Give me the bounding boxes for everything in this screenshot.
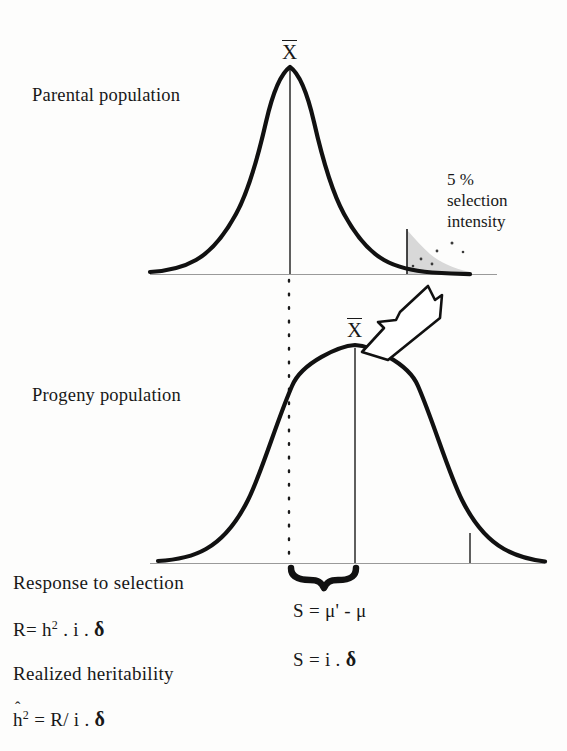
response-equation: R= h2 . i . δ	[13, 618, 105, 641]
figure-canvas: X Parental population 5 % selection inte…	[0, 0, 567, 751]
realized-heritability-equation: ˆh 2 = R/ i . δ	[13, 708, 105, 731]
parental-distribution-curve	[150, 67, 470, 274]
response-equation-prefix: R= h	[13, 619, 52, 640]
selection-differential-brace	[291, 568, 356, 588]
selection-intensity-line3: intensity	[447, 211, 567, 232]
progeny-mean-pointer-arrow	[362, 286, 442, 360]
stipple-dot	[462, 251, 465, 254]
progeny-distribution-curve	[158, 345, 545, 562]
response-equation-delta: δ	[94, 618, 105, 640]
circumflex-icon: ˆ	[15, 700, 21, 716]
selection-intensity-line2: selection	[447, 190, 567, 211]
selection-intensity-equation-delta: δ	[346, 648, 357, 670]
progeny-mean-symbol-text: X	[347, 318, 362, 341]
selection-intensity-equation-text: S = i .	[293, 649, 346, 670]
selection-intensity-note: 5 % selection intensity	[447, 169, 567, 232]
parental-population-label: Parental population	[32, 85, 180, 106]
stipple-dot	[420, 258, 423, 261]
parental-mean-symbol: X	[282, 40, 297, 65]
progeny-mean-symbol: X	[347, 318, 362, 343]
heritability-hat-group: ˆh	[13, 709, 23, 731]
selection-intensity-line1: 5 %	[447, 169, 567, 190]
parental-mean-symbol-text: X	[282, 40, 297, 63]
selection-tail-shaded-region	[407, 230, 470, 274]
selection-intensity-equation: S = i . δ	[293, 648, 356, 671]
response-equation-suffix: . i .	[58, 619, 94, 640]
heritability-equation-suffix: = R/ i .	[29, 709, 94, 730]
progeny-population-label: Progeny population	[32, 385, 181, 406]
stipple-dot	[431, 263, 434, 266]
stipple-dot	[436, 250, 439, 253]
stipple-dot	[412, 265, 415, 268]
response-to-selection-heading: Response to selection	[13, 572, 184, 594]
stipple-dot	[451, 242, 454, 245]
selection-differential-equation: S = μ' - μ	[293, 600, 366, 622]
realized-heritability-heading: Realized heritability	[13, 663, 174, 685]
heritability-equation-delta: δ	[95, 708, 106, 730]
